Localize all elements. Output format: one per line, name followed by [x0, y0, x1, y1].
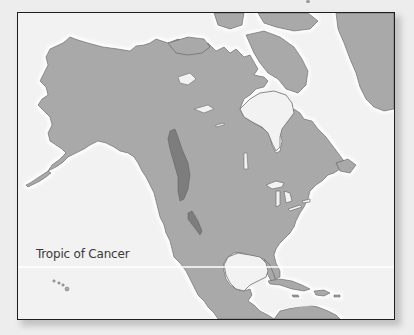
lake-winnipeg: [244, 153, 248, 169]
jamaica: [292, 295, 299, 297]
map-page: Tropic of Cancer: [0, 0, 414, 335]
top-edge-mark: [306, 0, 310, 3]
tropic-of-cancer-label: Tropic of Cancer: [36, 247, 129, 261]
map-frame: Tropic of Cancer: [17, 12, 395, 320]
lake-michigan: [276, 191, 280, 207]
puerto-rico: [334, 295, 340, 297]
north-america-map: [18, 13, 394, 319]
